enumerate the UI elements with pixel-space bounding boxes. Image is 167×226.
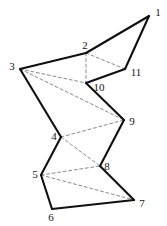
boundary-edge-4-5 (41, 137, 61, 175)
boundary-edge-5-6 (41, 175, 52, 209)
vertex-label-3: 3 (9, 61, 15, 72)
diagonal-edge-3-10 (20, 69, 86, 83)
vertex-label-10: 10 (94, 82, 105, 93)
vertex-label-5: 5 (32, 169, 38, 180)
diagonal-edge-5-8 (41, 166, 100, 175)
vertex-label-6: 6 (48, 212, 54, 223)
boundary-edge-9-10 (86, 83, 124, 120)
boundary-edge-10-11 (86, 69, 125, 83)
diagonal-edge-2-11 (86, 53, 125, 69)
vertex-label-11: 11 (131, 67, 142, 78)
diagonal-edge-4-8 (61, 137, 100, 166)
boundary-edge-6-7 (52, 200, 134, 209)
vertex-label-2: 2 (82, 40, 88, 51)
vertex-label-8: 8 (104, 161, 110, 172)
boundary-edge-2-3 (20, 53, 86, 69)
vertex-label-7: 7 (139, 198, 145, 209)
vertex-label-9: 9 (129, 116, 135, 127)
polygon-figure: 1234567891011 (0, 0, 167, 226)
vertex-label-1: 1 (155, 7, 161, 18)
vertex-label-4: 4 (51, 131, 57, 142)
diagonal-edge-4-9 (61, 120, 124, 137)
polygon-svg (0, 0, 167, 226)
